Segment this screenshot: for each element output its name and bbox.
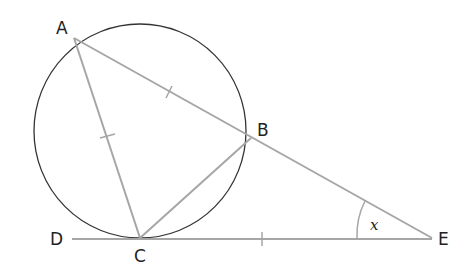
line-ac (74, 38, 140, 238)
label-e: E (438, 229, 449, 249)
circle (34, 24, 246, 238)
label-c: C (134, 246, 146, 266)
angle-arc-x (357, 201, 365, 238)
geometry-diagram: A B C D E x (0, 0, 472, 267)
label-b: B (257, 120, 269, 140)
line-ae (74, 38, 432, 238)
label-d: D (50, 229, 63, 249)
angle-label-x: x (370, 216, 379, 234)
line-bc (140, 138, 251, 238)
label-a: A (56, 18, 68, 38)
